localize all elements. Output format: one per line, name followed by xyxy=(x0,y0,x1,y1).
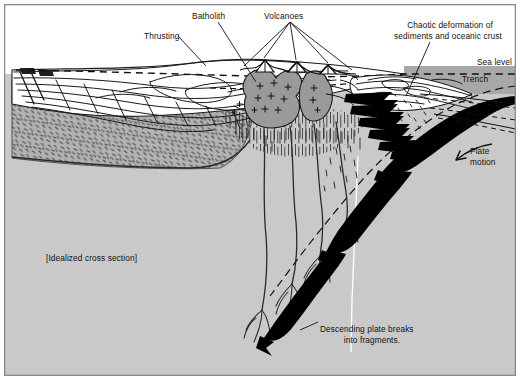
diagram-canvas: Thrusting Batholith Volcanoes Chaotic de… xyxy=(0,0,520,380)
label-chaotic-deformation-line1: Chaotic deformation of xyxy=(384,20,516,31)
batholith-large xyxy=(243,69,302,128)
label-trench: Trench xyxy=(462,74,488,85)
label-batholith: Batholith xyxy=(192,11,225,22)
label-sea-level: Sea level xyxy=(428,57,512,68)
label-volcanoes: Volcanoes xyxy=(264,11,303,22)
label-plate-motion-line2: motion xyxy=(470,157,496,168)
label-plate-motion-line1: Plate xyxy=(470,146,489,157)
label-thrusting: Thrusting xyxy=(144,31,180,42)
label-descending-plate-line2: into fragments. xyxy=(320,335,424,346)
label-idealized-cross-section: [Idealized cross section] xyxy=(46,253,137,264)
label-chaotic-deformation-line2: sediments and oceanic crust xyxy=(378,31,518,42)
label-descending-plate-line1: Descending plate breaks xyxy=(320,324,414,335)
